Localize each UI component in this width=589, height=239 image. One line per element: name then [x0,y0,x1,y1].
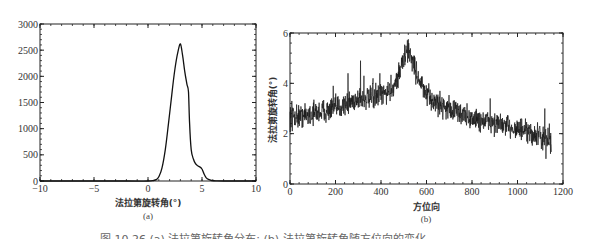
y-tick-label: 2500 [18,45,38,56]
chart-b-xlabel: 方位向 [413,201,440,212]
x-tick-label: 200 [328,186,343,197]
x-tick-label: 0 [288,186,293,197]
x-tick-label: 0 [146,183,151,194]
y-tick-label: 0 [283,179,288,190]
figure: −10−50510050010001500200025003000 法拉第旋转角… [0,0,589,239]
chart-b-series-line [290,39,551,159]
chart-a-frame [40,24,256,181]
y-tick-label: 6 [283,28,288,39]
chart-a-density-line [40,44,256,181]
y-tick-label: 1500 [18,97,38,108]
chart-a-ticks [40,24,256,181]
chart-a: −10−50510050010001500200025003000 法拉第旋转角… [18,19,261,222]
y-tick-label: 3000 [18,19,38,30]
x-tick-label: 5 [200,183,205,194]
x-tick-label: −5 [89,183,100,194]
y-tick-label: 0 [33,176,38,187]
x-tick-label: 10 [251,183,261,194]
y-tick-label: 500 [23,149,38,160]
x-tick-label: 800 [465,186,480,197]
chart-a-subtitle: (a) [143,211,153,221]
chart-a-tick-labels: −10−50510050010001500200025003000 [18,19,261,195]
chart-a-xlabel: 法拉第旋转角(°) [115,197,182,208]
y-tick-label: 1000 [18,123,38,134]
figure-caption: 图 10.26 (a) 法拉第旋转角分布; (b) 法拉第旋转角随方位向的变化 [100,232,426,239]
x-tick-label: 400 [374,186,389,197]
chart-b: 0200400600800100012000246 法拉第旋转角(°) 方位向 … [267,28,573,225]
y-tick-label: 2000 [18,71,38,82]
chart-b-subtitle: (b) [421,214,432,224]
x-tick-label: 1000 [508,186,528,197]
x-tick-label: 1200 [553,186,573,197]
y-tick-label: 2 [283,128,288,139]
y-tick-label: 4 [283,78,288,89]
x-tick-label: 600 [419,186,434,197]
chart-b-ylabel: 法拉第旋转角(°) [267,77,278,144]
